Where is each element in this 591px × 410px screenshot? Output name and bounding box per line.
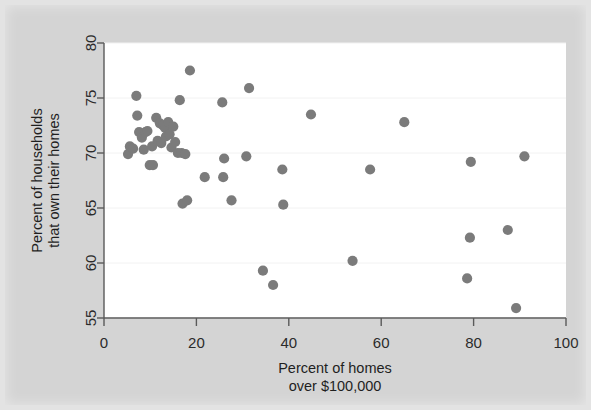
x-tick-label: 0 — [100, 334, 108, 351]
data-point — [503, 225, 513, 235]
x-tick-label: 40 — [280, 334, 297, 351]
data-point — [185, 65, 195, 75]
data-point — [131, 91, 141, 101]
data-point — [278, 200, 288, 210]
data-point — [258, 266, 268, 276]
data-point — [182, 195, 192, 205]
data-point — [200, 172, 210, 182]
data-point — [465, 233, 475, 243]
x-tick-label: 60 — [373, 334, 390, 351]
data-point — [519, 151, 529, 161]
x-axis-title-line2: over $100,000 — [289, 378, 382, 394]
data-point — [142, 126, 152, 136]
y-tick-label: 55 — [82, 310, 99, 327]
data-point — [132, 111, 142, 121]
data-point — [244, 83, 254, 93]
x-tick-label: 100 — [553, 334, 578, 351]
data-point — [466, 157, 476, 167]
data-point — [219, 153, 229, 163]
data-point — [175, 95, 185, 105]
figure-container: 556065707580020406080100Percent of homes… — [0, 0, 591, 410]
x-axis-title-line1: Percent of homes — [278, 360, 392, 376]
y-tick-label: 70 — [82, 145, 99, 162]
data-point — [226, 195, 236, 205]
data-point — [168, 122, 178, 132]
y-tick-label: 80 — [82, 35, 99, 52]
data-point — [170, 137, 180, 147]
y-tick-label: 75 — [82, 90, 99, 107]
data-point — [399, 117, 409, 127]
data-point — [277, 164, 287, 174]
data-point — [347, 256, 357, 266]
x-tick-label: 80 — [465, 334, 482, 351]
data-point — [462, 273, 472, 283]
y-tick-label: 65 — [82, 200, 99, 217]
data-point — [268, 280, 278, 290]
data-point — [180, 149, 190, 159]
y-tick-label: 60 — [82, 255, 99, 272]
data-point — [128, 144, 138, 154]
data-point — [241, 151, 251, 161]
data-point — [306, 109, 316, 119]
x-tick-label: 20 — [188, 334, 205, 351]
y-axis-title-line1: Percent of households — [29, 108, 45, 252]
scatter-plot: 556065707580020406080100Percent of homes… — [5, 5, 591, 410]
data-point — [148, 160, 158, 170]
data-point — [511, 303, 521, 313]
data-point — [218, 172, 228, 182]
data-point — [217, 97, 227, 107]
plot-area-background — [104, 43, 566, 318]
y-axis-title-line2: that own their homes — [46, 113, 62, 248]
data-point — [365, 164, 375, 174]
